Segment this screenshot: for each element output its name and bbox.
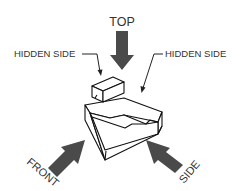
hidden-side-left-leader [82,54,103,76]
hidden-side-right-leader [141,54,164,93]
side-label: SIDE [176,158,202,185]
diagram-canvas: TOP HIDDEN SIDE HIDDEN SIDE [0,0,243,191]
top-arrow-icon [110,31,134,70]
view-directions-diagram: TOP HIDDEN SIDE HIDDEN SIDE [0,0,243,191]
side-arrow-icon [146,140,183,173]
leader-arrowhead-icon [141,86,146,93]
hidden-side-left-label: HIDDEN SIDE [14,48,75,59]
hidden-side-right-label: HIDDEN SIDE [165,48,226,59]
top-label: TOP [109,15,134,29]
front-arrow-icon [48,140,85,177]
leader-arrowhead-icon [98,70,103,77]
